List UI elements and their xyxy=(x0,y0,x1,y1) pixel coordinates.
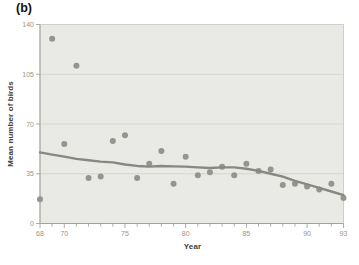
svg-text:35: 35 xyxy=(26,170,34,177)
data-point xyxy=(61,141,67,147)
x-axis-tick-labels: 68707580859093 xyxy=(36,230,347,237)
svg-text:75: 75 xyxy=(121,230,129,237)
data-point xyxy=(73,63,79,69)
y-axis-tick-labels: 03570105140 xyxy=(22,21,34,227)
data-point xyxy=(86,175,92,181)
svg-text:85: 85 xyxy=(242,230,250,237)
svg-text:93: 93 xyxy=(340,230,348,237)
svg-text:0: 0 xyxy=(30,220,34,227)
data-point xyxy=(195,172,201,178)
data-point xyxy=(98,174,104,180)
x-axis-title: Year xyxy=(40,242,345,251)
data-point xyxy=(122,132,128,138)
bird-scatter-figure: (b) Mean number of birds 687075808590930… xyxy=(0,0,359,265)
svg-text:105: 105 xyxy=(22,71,34,78)
y-axis-ticks xyxy=(36,25,40,224)
svg-text:90: 90 xyxy=(303,230,311,237)
svg-text:68: 68 xyxy=(36,230,44,237)
data-point xyxy=(49,36,55,42)
data-point xyxy=(328,181,334,187)
svg-text:80: 80 xyxy=(182,230,190,237)
data-point xyxy=(110,138,116,144)
data-point xyxy=(207,169,213,175)
svg-text:70: 70 xyxy=(60,230,68,237)
data-point xyxy=(158,148,164,154)
data-point xyxy=(37,196,43,202)
data-point xyxy=(183,154,189,160)
x-axis-ticks xyxy=(40,224,344,229)
data-point xyxy=(134,175,140,181)
data-point xyxy=(231,172,237,178)
data-point xyxy=(280,182,286,188)
data-point xyxy=(243,161,249,167)
scatter-plot: 6870758085909303570105140 xyxy=(0,0,359,265)
data-point xyxy=(171,181,177,187)
svg-text:140: 140 xyxy=(22,21,34,28)
svg-text:70: 70 xyxy=(26,121,34,128)
data-point xyxy=(268,166,274,172)
